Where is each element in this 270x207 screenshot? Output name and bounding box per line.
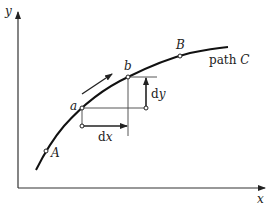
label-B: B (175, 38, 185, 52)
path-label: path C (209, 53, 249, 67)
point-a (80, 106, 84, 110)
dy-label: dy (151, 87, 166, 101)
label-b: b (124, 59, 132, 73)
axes: y x (4, 4, 265, 206)
y-axis-label: y (4, 4, 12, 18)
dx-label: dx (98, 130, 113, 144)
x-axis-label: x (257, 192, 264, 206)
point-b (126, 75, 130, 79)
dy-start-point (144, 106, 148, 110)
points (44, 54, 182, 153)
direction-arrow (82, 74, 112, 94)
label-a: a (70, 99, 77, 113)
point-A (44, 149, 48, 153)
path-curve (36, 47, 228, 170)
point-B (178, 54, 182, 58)
dx-start-point (80, 124, 84, 128)
label-A: A (50, 146, 60, 160)
line-integral-diagram: y x A a b B path C dx dy (0, 0, 270, 207)
